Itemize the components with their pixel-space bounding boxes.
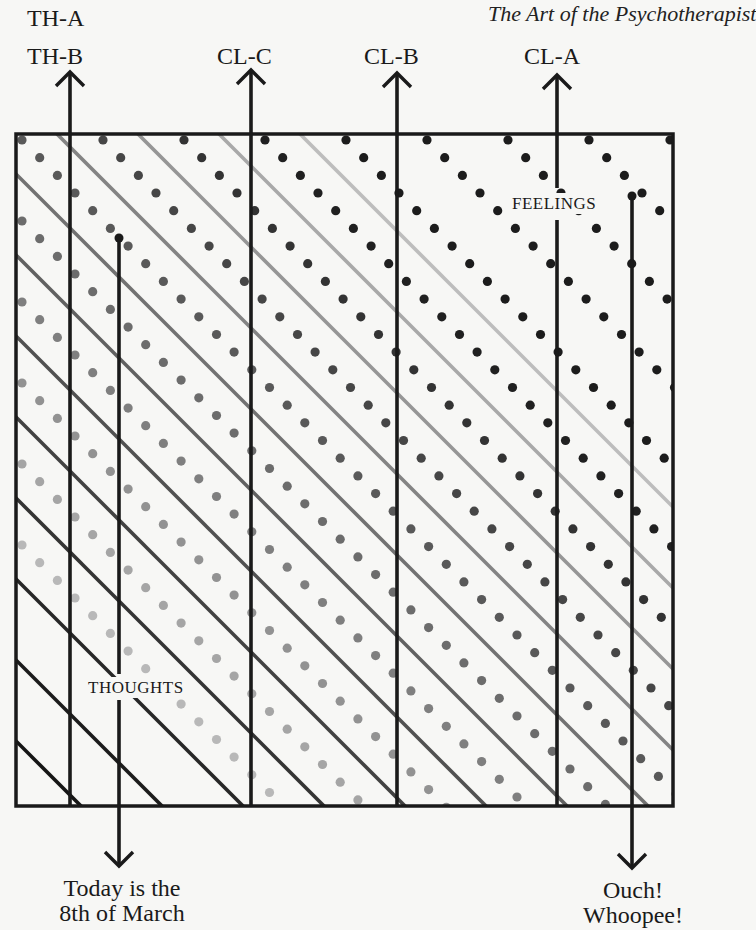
- pattern-dot: [159, 277, 168, 286]
- pattern-dot: [177, 457, 186, 466]
- pattern-dot: [275, 312, 284, 321]
- pattern-dot: [530, 648, 539, 657]
- pattern-dot: [336, 697, 345, 706]
- pattern-dot: [300, 418, 309, 427]
- pattern-dot: [406, 605, 415, 614]
- pattern-dot: [621, 577, 630, 586]
- pattern-dot: [124, 242, 133, 251]
- outcome-thoughts: Today is the 8th of March: [52, 876, 192, 926]
- pattern-dot: [336, 616, 345, 625]
- pattern-dot: [222, 259, 231, 268]
- label-feelings: FEELINGS: [509, 193, 599, 214]
- pattern-dot: [212, 573, 221, 582]
- pattern-dot: [318, 598, 327, 607]
- pattern-dot: [586, 542, 595, 551]
- pattern-dot: [124, 485, 133, 494]
- pattern-dot: [296, 171, 305, 180]
- pattern-dot: [283, 401, 292, 410]
- pattern-dot: [371, 570, 380, 579]
- pattern-dot: [406, 524, 415, 533]
- label-cl-b: CL-B: [364, 44, 419, 68]
- pattern-dot: [169, 206, 178, 215]
- pattern-dot: [106, 467, 115, 476]
- pattern-dot: [367, 242, 376, 251]
- pattern-dot: [571, 365, 580, 374]
- pattern-dot: [483, 277, 492, 286]
- pattern-dot: [159, 601, 168, 610]
- pattern-dot: [637, 188, 646, 197]
- pattern-dot: [543, 418, 552, 427]
- pattern-dot: [618, 736, 627, 745]
- pattern-dot: [452, 489, 461, 498]
- running-header: The Art of the Psychotherapist: [488, 1, 756, 27]
- pattern-dot: [88, 368, 97, 377]
- arrow-cl-c: [237, 70, 265, 806]
- pattern-dot: [536, 330, 545, 339]
- pattern-dot: [424, 623, 433, 632]
- pattern-dot: [35, 315, 44, 324]
- pattern-dot: [151, 188, 160, 197]
- pattern-dot: [194, 717, 203, 726]
- pattern-dot: [106, 548, 115, 557]
- pattern-dot: [564, 277, 573, 286]
- pattern-dot: [283, 563, 292, 572]
- pattern-dot: [430, 224, 439, 233]
- pattern-dot: [353, 633, 362, 642]
- pattern-dot: [300, 661, 309, 670]
- outcome-feelings: Ouch! Whoopee!: [578, 878, 688, 928]
- pattern-dot: [88, 611, 97, 620]
- pattern-dot: [265, 464, 274, 473]
- diagonal-line: [0, 0, 697, 719]
- pattern-dot: [98, 135, 107, 144]
- pattern-dot: [215, 171, 224, 180]
- pattern-dot: [565, 764, 574, 773]
- pattern-dot: [134, 171, 143, 180]
- pattern-dot: [589, 383, 598, 392]
- pattern-dot: [336, 535, 345, 544]
- pattern-dot: [498, 454, 507, 463]
- pattern-dot: [374, 330, 383, 339]
- pattern-dot: [318, 436, 327, 445]
- pattern-dot: [607, 401, 616, 410]
- pattern-dot: [540, 577, 549, 586]
- pattern-dot: [533, 489, 542, 498]
- pattern-dot: [212, 735, 221, 744]
- pattern-dot: [523, 560, 532, 569]
- pattern-dot: [596, 471, 605, 480]
- pattern-dot: [17, 459, 26, 468]
- pattern-dot: [283, 725, 292, 734]
- pattern-dot: [283, 644, 292, 653]
- pattern-dot: [512, 792, 521, 801]
- pattern-dot: [503, 135, 512, 144]
- pattern-dot: [212, 330, 221, 339]
- pattern-dot: [565, 683, 574, 692]
- pattern-dot: [35, 396, 44, 405]
- pattern-dot: [353, 471, 362, 480]
- pattern-dot: [194, 393, 203, 402]
- pattern-dot: [194, 312, 203, 321]
- pattern-dot: [230, 348, 239, 357]
- pattern-dot: [313, 188, 322, 197]
- pattern-dot: [402, 277, 411, 286]
- pattern-dot: [300, 742, 309, 751]
- pattern-dot: [462, 418, 471, 427]
- pattern-dot: [455, 330, 464, 339]
- pattern-dot: [490, 365, 499, 374]
- pattern-dot: [568, 524, 577, 533]
- pattern-dot: [53, 171, 62, 180]
- pattern-dot: [265, 707, 274, 716]
- pattern-dot: [399, 436, 408, 445]
- pattern-dot: [240, 277, 249, 286]
- pattern-dot: [124, 323, 133, 332]
- pattern-dot: [258, 295, 267, 304]
- arrow-th-b: [56, 72, 84, 806]
- pattern-dot: [620, 171, 629, 180]
- pattern-dot: [477, 757, 486, 766]
- pattern-dot: [521, 153, 530, 162]
- pattern-dot: [422, 135, 431, 144]
- pattern-dot: [141, 259, 150, 268]
- pattern-dot: [465, 259, 474, 268]
- arrow-feelings: [618, 192, 646, 869]
- pattern-dot: [642, 436, 651, 445]
- pattern-dot: [35, 558, 44, 567]
